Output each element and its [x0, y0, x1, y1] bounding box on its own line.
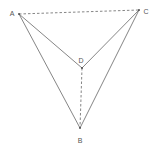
label-d: D — [78, 57, 83, 64]
segment-ad — [19, 14, 82, 68]
vertex-c — [138, 9, 140, 11]
segment-cb — [80, 10, 139, 128]
segment-ab — [19, 14, 80, 128]
vertex-d — [81, 67, 83, 69]
label-c: C — [143, 8, 148, 15]
geometry-figure: ABCD — [0, 0, 154, 148]
label-a: A — [10, 10, 15, 17]
diagram-canvas: ABCD — [0, 0, 154, 148]
label-b: B — [78, 137, 83, 144]
vertex-a — [18, 13, 20, 15]
vertex-b — [79, 127, 81, 129]
segment-dc — [82, 10, 139, 68]
segment-db — [80, 68, 82, 128]
segment-ac — [19, 10, 139, 14]
